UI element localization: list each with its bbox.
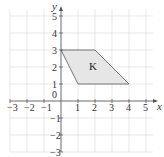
svg-text:−3: −3 <box>50 147 61 157</box>
svg-text:5: 5 <box>52 11 57 22</box>
coordinate-grid: K x y −3−2−101234512345−1−2−3 <box>0 0 164 156</box>
svg-text:−3: −3 <box>7 102 18 113</box>
svg-text:1: 1 <box>75 102 80 113</box>
svg-text:2: 2 <box>92 102 97 113</box>
svg-text:1: 1 <box>52 79 57 90</box>
x-axis-label: x <box>156 100 162 112</box>
svg-text:0: 0 <box>52 89 57 100</box>
svg-text:4: 4 <box>126 102 131 113</box>
svg-text:−2: −2 <box>24 102 35 113</box>
svg-text:3: 3 <box>109 102 114 113</box>
svg-text:2: 2 <box>52 62 57 73</box>
y-axis-arrow-icon <box>59 6 63 11</box>
svg-text:4: 4 <box>52 28 57 39</box>
svg-text:5: 5 <box>143 102 148 113</box>
svg-text:−1: −1 <box>41 102 52 113</box>
shape-label: K <box>89 60 97 72</box>
svg-text:3: 3 <box>52 45 57 56</box>
